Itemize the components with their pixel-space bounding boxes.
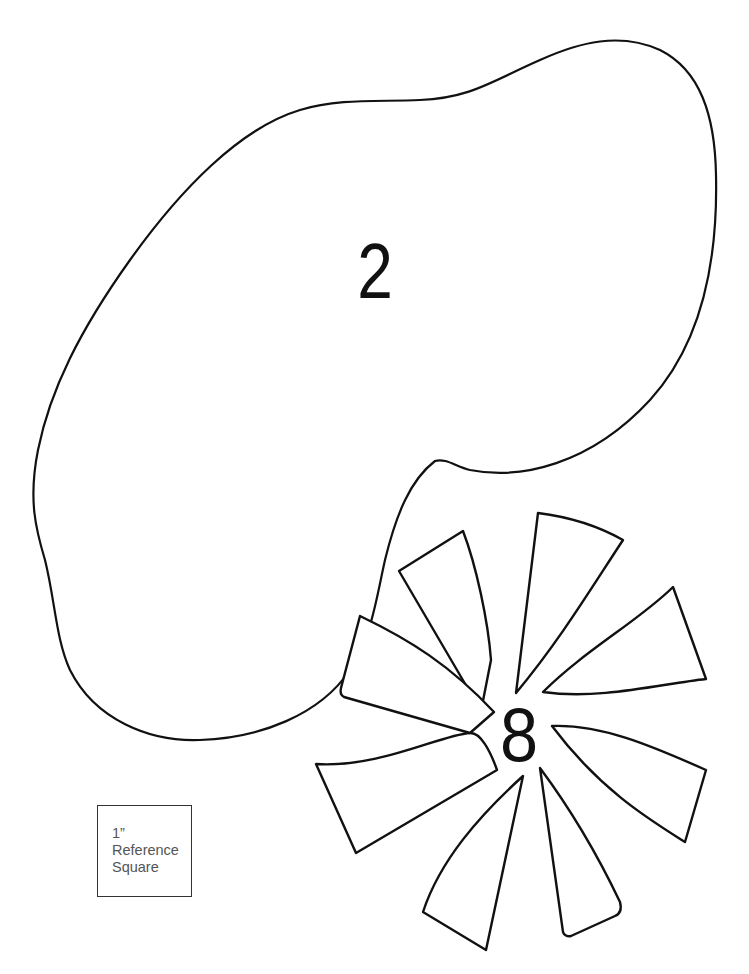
reference-square-word-square: Square [112, 859, 191, 876]
petal-lower-right [540, 768, 621, 936]
reference-square-word-reference: Reference [112, 842, 191, 859]
blob-number-label: 2 [346, 232, 403, 310]
reference-square: 1” Reference Square [97, 805, 192, 897]
reference-square-size: 1” [112, 825, 191, 842]
pinwheel-number-label: 8 [488, 697, 551, 773]
